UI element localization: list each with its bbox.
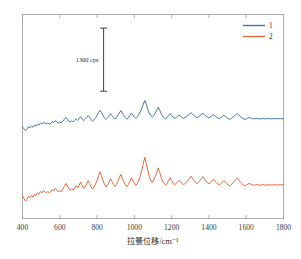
raman-spectrum-chart: 40060080010001200140016001800拉曼位移/cm⁻¹13… [0,0,301,259]
legend-label-2: 2 [269,33,273,41]
scale-bar-label: 1300 cps [76,56,99,63]
x-axis-title: 拉曼位移/cm⁻¹ [127,236,179,246]
x-tick-label: 600 [54,223,66,232]
x-tick-label: 1800 [276,223,291,232]
legend-label-1: 1 [269,22,273,30]
x-tick-label: 1400 [201,223,216,232]
x-tick-label: 800 [91,223,103,232]
chart-figure: 40060080010001200140016001800拉曼位移/cm⁻¹13… [0,0,301,259]
x-tick-label: 1000 [127,223,142,232]
x-tick-label: 400 [17,223,29,232]
x-tick-label: 1200 [164,223,179,232]
x-tick-label: 1600 [239,223,254,232]
